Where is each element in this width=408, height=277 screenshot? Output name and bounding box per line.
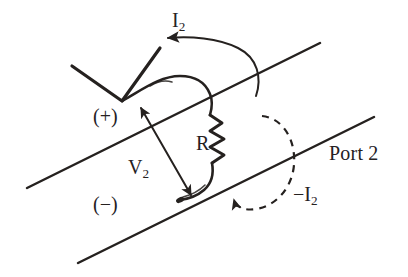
current-arrow-I2 <box>168 37 259 96</box>
label-polarity-negative: (−) <box>93 194 118 214</box>
label-resistor-R: R <box>196 133 209 153</box>
label-polarity-positive: (+) <box>93 106 118 126</box>
terminal-bracket <box>72 48 160 101</box>
label-current-I2: I2 <box>172 10 185 33</box>
lower-rail <box>78 117 374 263</box>
reverse-current-arrow <box>234 116 294 210</box>
voltage-arrow-V2 <box>141 108 191 195</box>
label-port-name: Port 2 <box>329 143 379 163</box>
resistor-symbol <box>210 115 224 163</box>
lower-connection-wire <box>180 163 213 200</box>
diagram-canvas: I2 (+) (−) V2 R −I2 Port 2 <box>0 0 408 277</box>
label-reverse-current: −I2 <box>293 184 318 207</box>
label-voltage-V2: V2 <box>128 157 149 180</box>
